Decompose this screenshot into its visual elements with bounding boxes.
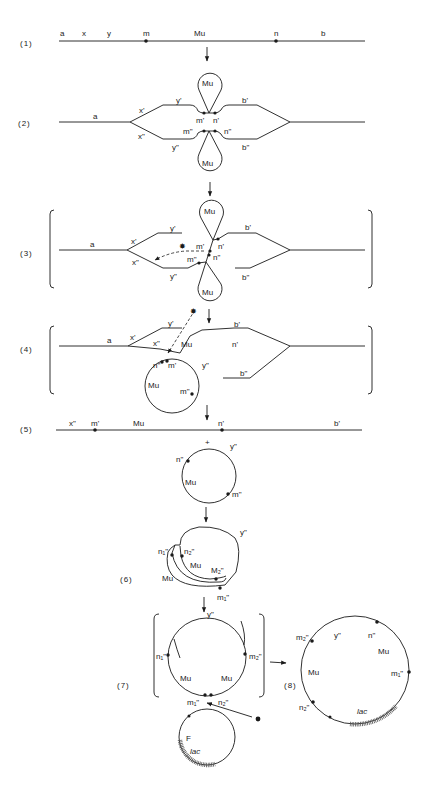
label-b1: b' bbox=[334, 419, 340, 428]
lower-right-strand bbox=[223, 346, 290, 378]
label-n2: n" bbox=[153, 361, 160, 370]
label-n2: n₂" bbox=[218, 698, 229, 707]
label-y2: y" bbox=[170, 272, 177, 281]
mu-bottom-label: Mu bbox=[202, 159, 213, 168]
step-7: (7) y" n₁" m₂" Mu Mu m₁" n₂" F lac bbox=[117, 610, 286, 765]
label-mu-left: Mu bbox=[180, 674, 191, 683]
label-m1: m₁" bbox=[187, 698, 199, 707]
bracket-right bbox=[368, 326, 372, 394]
mu-bottom-label: Mu bbox=[202, 288, 213, 297]
attack-arrow bbox=[155, 251, 204, 260]
label-mu-left: Mu bbox=[308, 668, 319, 677]
label-y2: y" bbox=[172, 143, 179, 152]
label-mu-right: Mu bbox=[221, 674, 232, 683]
site-m-dot bbox=[144, 39, 148, 43]
bracket-right bbox=[368, 210, 372, 288]
label-m2: m" bbox=[232, 490, 242, 499]
label-a: a bbox=[60, 29, 65, 38]
label-n2: n₂" bbox=[184, 547, 195, 556]
star-icon: ✸ bbox=[190, 307, 197, 316]
step-label-1: (1) bbox=[20, 39, 33, 48]
step-6: (6) y" n₁" n₂" Mu M₂" Mu m₁" bbox=[120, 527, 247, 612]
label-b1: b' bbox=[234, 320, 240, 329]
label-b2: b" bbox=[242, 143, 249, 152]
label-a: a bbox=[107, 336, 112, 345]
label-n1: n' bbox=[218, 242, 224, 251]
step-label-4: (4) bbox=[20, 345, 33, 354]
label-n1: n' bbox=[218, 419, 224, 428]
label-m2: m₂" bbox=[249, 652, 262, 661]
label-y2: y" bbox=[240, 528, 247, 537]
label-x2: x" bbox=[138, 132, 145, 141]
label-m1: m' bbox=[168, 361, 177, 370]
label-m2: m" bbox=[183, 127, 193, 136]
step-8: (8) m₂" y" n" Mu Mu m₁" n₂" lac bbox=[284, 616, 411, 724]
lower-strand bbox=[130, 122, 290, 139]
label-x2: x" bbox=[69, 419, 76, 428]
label-mu: Mu bbox=[194, 29, 205, 38]
label-x: x bbox=[82, 29, 86, 38]
label-m1: m' bbox=[196, 242, 205, 251]
label-y: y bbox=[107, 29, 111, 38]
label-b: b bbox=[321, 29, 326, 38]
label-x1: x' bbox=[139, 106, 145, 115]
label-x2: x" bbox=[132, 258, 139, 267]
label-a: a bbox=[90, 240, 95, 249]
arrow-right-icon bbox=[270, 662, 286, 663]
step-label-6: (6) bbox=[120, 575, 133, 584]
label-y1: y' bbox=[168, 319, 174, 328]
label-y1: y' bbox=[176, 96, 182, 105]
step-label-3: (3) bbox=[20, 249, 33, 258]
label-m2: m₂" bbox=[296, 633, 309, 642]
label-y1: y' bbox=[170, 224, 176, 233]
label-mu-inner: Mu bbox=[190, 561, 201, 570]
mu-top-label: Mu bbox=[204, 207, 215, 216]
label-n2: n" bbox=[176, 455, 183, 464]
label-a: a bbox=[93, 112, 98, 121]
step-label-8: (8) bbox=[284, 681, 297, 690]
step-2: (2) Mu Mu a x' y' b' m' n' x" y" m" n" b… bbox=[18, 73, 365, 196]
label-m1: m' bbox=[91, 419, 100, 428]
strand-left bbox=[174, 639, 180, 658]
label-lac: lac bbox=[190, 747, 200, 756]
step-5: (5) x" m' Mu n' b' + n" y" Mu m" bbox=[20, 419, 362, 522]
label-mu-outer: Mu bbox=[162, 574, 173, 583]
label-m1: m₁" bbox=[217, 593, 229, 602]
label-n2: n" bbox=[213, 253, 220, 262]
upper-left-strand bbox=[59, 233, 182, 250]
label-mu-right: Mu bbox=[378, 647, 389, 656]
step-label-2: (2) bbox=[18, 119, 31, 128]
label-b1: b' bbox=[242, 96, 248, 105]
plus-sign: + bbox=[205, 438, 210, 447]
label-n1: n₁" bbox=[158, 547, 168, 556]
step-label-7: (7) bbox=[117, 681, 130, 690]
label-y2: y" bbox=[230, 442, 237, 451]
label-mu: Mu bbox=[181, 340, 192, 349]
label-m1: m₁" bbox=[391, 669, 403, 678]
label-y2: y" bbox=[202, 361, 209, 370]
bracket-left bbox=[50, 210, 54, 288]
label-n1: n' bbox=[232, 340, 238, 349]
label-mu: Mu bbox=[133, 419, 144, 428]
label-f: F bbox=[186, 734, 191, 743]
label-m1: m' bbox=[196, 116, 205, 125]
label-b2: b" bbox=[240, 369, 247, 378]
label-n1: n' bbox=[213, 116, 219, 125]
label-n2: n₂" bbox=[299, 703, 310, 712]
label-y2: y" bbox=[334, 631, 341, 640]
upper-left-strand bbox=[59, 328, 182, 346]
label-x2: x" bbox=[153, 339, 160, 348]
label-m2: m" bbox=[180, 387, 190, 396]
site-n-dot bbox=[274, 39, 278, 43]
label-n1: n₁" bbox=[156, 652, 166, 661]
joined-strand bbox=[127, 233, 365, 268]
label-lac: lac bbox=[357, 707, 367, 716]
cointegrate-outer bbox=[167, 527, 239, 586]
label-x1: x' bbox=[130, 333, 136, 342]
step-1: (1) a x y m Mu n b bbox=[20, 29, 365, 61]
label-mu-circle: Mu bbox=[185, 478, 196, 487]
label-m: m bbox=[143, 29, 150, 38]
star-icon bbox=[256, 717, 261, 722]
bracket-left bbox=[50, 326, 54, 394]
label-m2: m" bbox=[187, 255, 197, 264]
